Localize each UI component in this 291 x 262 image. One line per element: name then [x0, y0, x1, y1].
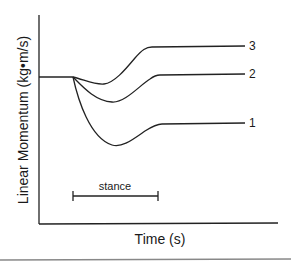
x-axis-label: Time (s): [135, 231, 186, 247]
curve-3-label: 3: [249, 39, 256, 53]
momentum-chart: 3 2 1 stance Time (s) Linear Momentum (k…: [0, 0, 291, 262]
curve-1: [73, 77, 245, 146]
stance-label: stance: [99, 180, 131, 192]
curve-1-label: 1: [249, 116, 256, 130]
x-axis: [39, 223, 278, 224]
curve-2: [73, 74, 245, 102]
curve-2-label: 2: [249, 67, 256, 81]
page-rule: [0, 259, 291, 260]
y-axis-label: Linear Momentum (kg•m/s): [15, 36, 31, 204]
curve-3: [73, 46, 245, 84]
